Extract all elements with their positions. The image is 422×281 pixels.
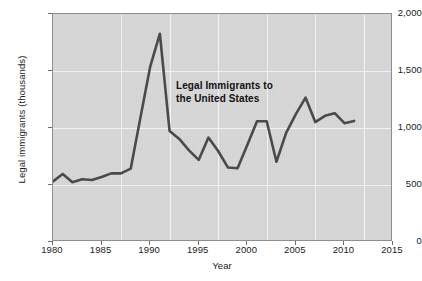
x-tick-label-2010: 2010: [320, 244, 366, 255]
series-annotation-line-1: Legal Immigrants to: [176, 79, 304, 92]
chart-figure: Legal immigrants (thousands) 2,000 1,500…: [0, 0, 422, 281]
x-tick-mark-1985: [101, 241, 102, 245]
x-axis-title: Year: [52, 260, 392, 271]
x-tick-label-2000: 2000: [223, 244, 269, 255]
x-tick-mark-2005: [295, 241, 296, 245]
x-tick-label-2005: 2005: [272, 244, 318, 255]
x-tick-mark-1990: [149, 241, 150, 245]
series-annotation-line-2: the United States: [176, 92, 304, 105]
plot-area: [52, 13, 392, 241]
x-tick-mark-2000: [246, 241, 247, 245]
y-axis-title-wrap: Legal immigrants (thousands): [10, 0, 22, 228]
x-tick-label-2015: 2015: [369, 244, 415, 255]
x-tick-label-1985: 1985: [78, 244, 124, 255]
x-tick-label-1980: 1980: [29, 244, 75, 255]
x-tick-mark-2015: [392, 241, 393, 245]
x-tick-label-1995: 1995: [175, 244, 221, 255]
series-line-legal-immigrants: [53, 14, 392, 241]
y-axis-title: Legal immigrants (thousands): [16, 45, 27, 195]
x-tick-mark-2010: [343, 241, 344, 245]
x-tick-mark-1995: [198, 241, 199, 245]
x-tick-label-1990: 1990: [126, 244, 172, 255]
x-tick-mark-1980: [52, 241, 53, 245]
series-annotation: Legal Immigrants to the United States: [176, 79, 304, 105]
